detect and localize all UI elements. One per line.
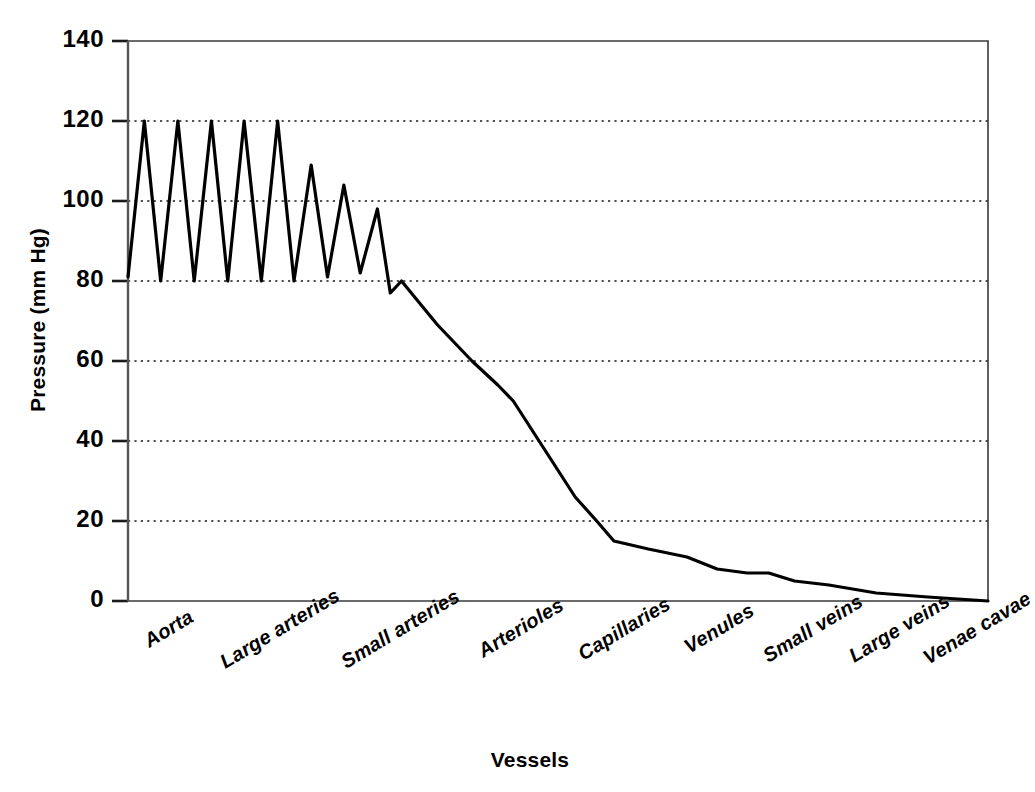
y-tick-label: 120 (24, 105, 104, 133)
y-tick-label: 140 (24, 25, 104, 53)
y-tick-label: 100 (24, 185, 104, 213)
gridlines-group (128, 121, 988, 521)
y-tick-label: 40 (24, 425, 104, 453)
plot-frame (128, 41, 988, 601)
y-tick-marks-group (112, 41, 128, 601)
y-tick-label: 20 (24, 505, 104, 533)
y-tick-label: 80 (24, 265, 104, 293)
y-tick-label: 0 (24, 585, 104, 613)
x-axis-title: Vessels (400, 748, 660, 772)
y-tick-label: 60 (24, 345, 104, 373)
